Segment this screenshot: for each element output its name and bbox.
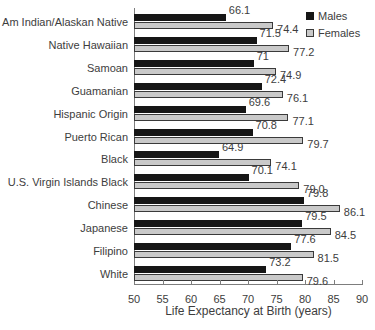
males-bar — [134, 151, 219, 158]
category-label: Japanese — [0, 222, 128, 235]
x-tick-mark — [305, 280, 306, 284]
males-bar — [134, 60, 254, 67]
males-legend-label: Males — [318, 10, 347, 22]
category-label: U.S. Virgin Islands Black — [0, 176, 128, 189]
category-label: Am Indian/Alaskan Native — [0, 16, 128, 29]
males-bar — [134, 106, 246, 113]
males-value-label: 79.5 — [305, 210, 326, 222]
category-label: Native Hawaiian — [0, 39, 128, 52]
males-bar — [134, 174, 249, 181]
males-value-label: 72.4 — [265, 73, 286, 85]
males-value-label: 79.8 — [307, 187, 328, 199]
category-label: White — [0, 268, 128, 281]
females-bar — [134, 22, 273, 29]
females-value-label: 77.1 — [292, 115, 313, 127]
males-value-label: 70.1 — [252, 164, 273, 176]
males-value-label: 70.8 — [256, 119, 277, 131]
males-bar — [134, 83, 262, 90]
females-value-label: 76.1 — [287, 92, 308, 104]
males-bar — [134, 129, 253, 136]
males-value-label: 66.1 — [229, 4, 250, 16]
x-tick-mark — [220, 280, 221, 284]
males-value-label: 71.5 — [260, 27, 281, 39]
females-value-label: 79.7 — [307, 138, 328, 150]
category-label: Chinese — [0, 199, 128, 212]
females-value-label: 79.6 — [307, 275, 328, 287]
x-axis-title: Life Expectancy at Birth (years) — [134, 304, 363, 318]
category-label: Black — [0, 153, 128, 166]
males-value-label: 71 — [257, 50, 269, 62]
category-label: Hispanic Origin — [0, 108, 128, 121]
males-value-label: 77.6 — [294, 233, 315, 245]
x-tick-mark — [362, 280, 363, 284]
category-label: Guamanian — [0, 85, 128, 98]
x-tick-mark — [191, 280, 192, 284]
life-expectancy-bar-chart: Am Indian/Alaskan Native66.174.4Native H… — [0, 0, 375, 330]
females-value-label: 86.1 — [344, 206, 365, 218]
males-value-label: 73.2 — [269, 256, 290, 268]
females-value-label: 74.1 — [275, 160, 296, 172]
category-label: Filipino — [0, 245, 128, 258]
females-legend-swatch-icon — [306, 29, 314, 37]
males-value-label: 64.9 — [222, 141, 243, 153]
males-bar — [134, 197, 304, 204]
males-bar — [134, 243, 291, 250]
males-bar — [134, 266, 266, 273]
males-value-label: 69.6 — [249, 96, 270, 108]
males-bar — [134, 37, 257, 44]
category-label: Puerto Rican — [0, 131, 128, 144]
males-legend-swatch-icon — [306, 12, 314, 20]
females-bar — [134, 68, 276, 75]
x-tick-mark — [277, 280, 278, 284]
females-bar — [134, 182, 299, 189]
females-value-label: 77.2 — [293, 46, 314, 58]
x-tick-mark — [334, 280, 335, 284]
females-value-label: 81.5 — [318, 252, 339, 264]
x-tick-mark — [248, 280, 249, 284]
males-bar — [134, 220, 302, 227]
females-bar — [134, 137, 303, 144]
category-label: Samoan — [0, 62, 128, 75]
x-axis-line — [134, 284, 363, 285]
x-tick-mark — [163, 280, 164, 284]
females-legend-label: Females — [318, 27, 360, 39]
females-value-label: 84.5 — [335, 229, 356, 241]
males-bar — [134, 14, 226, 21]
